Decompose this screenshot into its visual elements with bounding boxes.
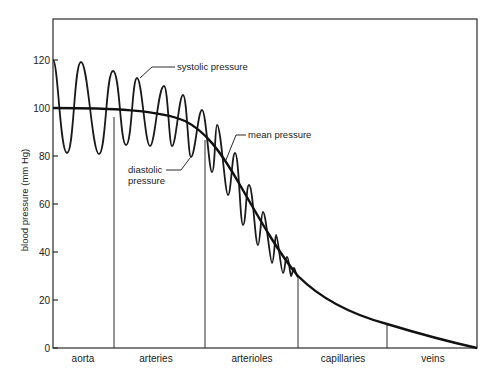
segment-label-arteries: arteries [139,353,172,364]
segment-dividers [114,117,387,348]
y-axis-label: blood pressure (mm Hg) [19,149,30,251]
y-tick-120: 120 [33,55,50,66]
diastolic-pressure-label-line2: pressure [128,175,165,186]
segment-label-arterioles: arterioles [231,353,272,364]
segment-label-aorta: aorta [72,353,95,364]
systolic-leader-line [140,67,175,78]
systolic-pressure-label: systolic pressure [177,61,248,72]
mean-pressure-label: mean pressure [248,129,311,140]
y-tick-100: 100 [33,103,50,114]
segment-labels: aorta arteries arterioles capillaries ve… [72,353,445,364]
segment-label-capillaries: capillaries [321,353,365,364]
diastolic-leader-line [166,158,190,170]
y-tick-80: 80 [39,151,51,162]
blood-pressure-chart: 0 20 40 60 80 100 120 blood pressure (mm… [0,0,496,382]
plot-frame [53,19,477,348]
diastolic-pressure-label-line1: diastolic [128,164,163,175]
y-tick-20: 20 [39,295,51,306]
segment-label-veins: veins [421,353,444,364]
y-tick-0: 0 [44,343,50,354]
mean-pressure-line [53,108,477,348]
y-tick-60: 60 [39,199,51,210]
y-tick-40: 40 [39,247,51,258]
y-axis [53,60,58,348]
pressure-wave-line [53,60,298,277]
y-tick-labels: 0 20 40 60 80 100 120 [33,55,50,354]
